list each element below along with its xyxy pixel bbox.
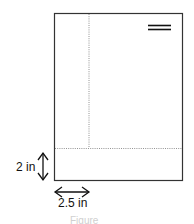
page-frame	[55, 14, 183, 181]
page-diagram	[0, 0, 194, 224]
left-margin-label: 2.5 in	[58, 197, 87, 209]
bottom-margin-label: 2 in	[16, 161, 35, 173]
vertical-dimension-arrow-icon	[38, 153, 48, 180]
figure-caption: Figure	[70, 215, 98, 224]
